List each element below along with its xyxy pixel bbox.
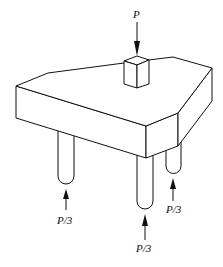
column-right-face: [137, 60, 149, 88]
arrow-up-icon: [63, 189, 69, 199]
load-label: P: [132, 8, 140, 20]
left-pile: [58, 128, 74, 184]
arrow-up-icon: [142, 214, 148, 226]
reaction-middle-label: P/3: [135, 242, 152, 254]
column-block: [124, 56, 149, 88]
column-left-face: [124, 61, 137, 88]
reaction-middle: P/3: [135, 214, 152, 254]
arrow-down-icon: [134, 41, 140, 56]
load-arrow: P: [132, 8, 140, 56]
reaction-left: P/3: [56, 189, 73, 226]
middle-pile: [137, 155, 153, 209]
reaction-right-label: P/3: [165, 203, 182, 215]
arrow-up-icon: [170, 178, 176, 189]
pile-cap-slab: [16, 57, 212, 158]
pile-cap-diagram: P P/3 P/3 P/3: [0, 0, 223, 267]
reaction-left-label: P/3: [56, 214, 73, 226]
reaction-right: P/3: [165, 178, 182, 215]
